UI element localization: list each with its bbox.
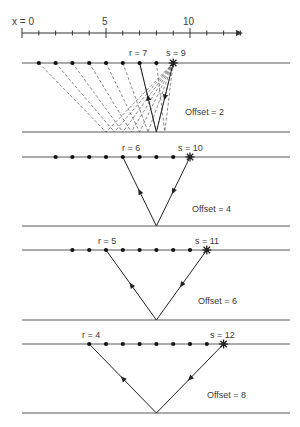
panel-geometry-offset-6 (22, 246, 290, 321)
receiver-dot (171, 342, 175, 346)
receiver-dot (104, 155, 108, 159)
receiver-label: r = 5 (98, 236, 116, 246)
ray-geometry (22, 59, 290, 414)
receiver-dot (37, 61, 41, 65)
dashed-ray (148, 63, 173, 132)
receiver-dot (121, 248, 125, 252)
offset-label: Offset = 2 (185, 107, 224, 117)
receiver-dot (70, 61, 74, 65)
receiver-dot (171, 248, 175, 252)
panel-offset-4: r = 6 s = 10 Offset = 4 (122, 143, 231, 214)
source-label: s = 10 (178, 143, 203, 153)
receiver-dot (54, 61, 58, 65)
receiver-dot (104, 61, 108, 65)
panel-geometry-offset-8 (22, 340, 290, 414)
receiver-dot (70, 155, 74, 159)
receiver-dot (87, 155, 91, 159)
receiver-dot (121, 342, 125, 346)
dashed-ray (39, 63, 106, 132)
receiver-dot (121, 61, 125, 65)
dashed-ray (56, 63, 115, 132)
panel-offset-6: r = 5 s = 11 Offset = 6 (98, 236, 237, 306)
axis-tick-label-5: 5 (102, 16, 108, 27)
axis-arrow-icon (236, 30, 243, 36)
dashed-ray (106, 63, 173, 132)
receiver-dot (154, 61, 158, 65)
receiver-dot (171, 155, 175, 159)
ray-direction-arrow-icon (146, 95, 151, 101)
receiver-dot (154, 248, 158, 252)
ray-direction-arrow-icon (129, 283, 135, 289)
source-star-icon (186, 153, 195, 162)
source-star-icon (202, 246, 211, 255)
offset-label: Offset = 6 (198, 296, 237, 306)
receiver-dot (87, 248, 91, 252)
source-star-icon (219, 340, 228, 349)
receiver-dot (121, 155, 125, 159)
dashed-ray (131, 63, 173, 132)
receiver-label: r = 7 (129, 48, 147, 58)
receiver-dot (205, 342, 209, 346)
receiver-label: r = 6 (122, 143, 140, 153)
offset-label: Offset = 4 (192, 204, 231, 214)
source-star-icon (169, 59, 178, 68)
ray-direction-arrow-icon (163, 94, 168, 100)
source-label: s = 12 (210, 330, 235, 340)
receiver-dot (54, 155, 58, 159)
ray-direction-arrow-icon (180, 281, 186, 287)
receiver-dot (154, 342, 158, 346)
receiver-dot (70, 248, 74, 252)
panel-offset-8: r = 4 s = 12 Offset = 8 (82, 330, 246, 400)
receiver-dot (87, 342, 91, 346)
receiver-dot (138, 248, 142, 252)
axis-tick-label-10: 10 (183, 16, 195, 27)
receiver-dot (138, 61, 142, 65)
panel-offset-2: r = 7 s = 9 Offset = 2 (129, 48, 224, 117)
dashed-ray (72, 63, 122, 132)
dashed-ray (140, 63, 174, 132)
receiver-dot (104, 248, 108, 252)
receiver-dot (87, 61, 91, 65)
receiver-dot (138, 342, 142, 346)
source-label: s = 11 (195, 236, 219, 246)
receiver-dot (188, 342, 192, 346)
receiver-dot (138, 155, 142, 159)
receiver-dot (188, 248, 192, 252)
receiver-dot (104, 342, 108, 346)
source-label: s = 9 (166, 48, 186, 58)
receiver-label: r = 4 (82, 330, 100, 340)
cmp-diagram: x = 0 5 10 r = 7 s = 9 Offset = 2 r = 6 … (0, 0, 300, 427)
panel-geometry-offset-2 (22, 59, 290, 133)
offset-label: Offset = 8 (207, 390, 246, 400)
axis-label-x0: x = 0 (12, 16, 34, 27)
receiver-dot (154, 155, 158, 159)
distance-axis: x = 0 5 10 (12, 16, 243, 38)
panel-geometry-offset-4 (22, 153, 290, 227)
